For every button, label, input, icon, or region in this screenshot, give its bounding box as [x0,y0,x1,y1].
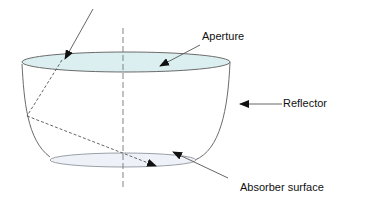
incoming-ray [65,9,93,59]
absorber-label: Absorber surface [240,182,324,193]
reflector-wall [22,62,230,160]
aperture-label: Aperture [202,31,244,42]
aperture-surface [22,52,230,72]
reflector-label: Reflector [283,98,327,109]
absorber-leader [173,152,228,178]
